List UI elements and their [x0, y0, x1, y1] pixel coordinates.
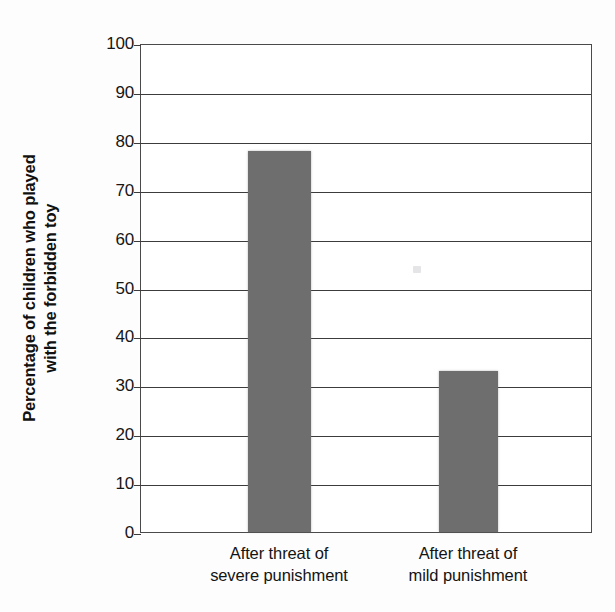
y-axis-tick-label: 20 [88, 425, 134, 445]
gridline [141, 143, 591, 144]
y-axis-tick-labels: 0102030405060708090100 [88, 44, 134, 533]
plot-area [140, 44, 592, 533]
gridline [141, 94, 591, 95]
bar-chart-figure: Percentage of children who played with t… [0, 0, 615, 612]
x-axis-category-0-line-2: severe punishment [169, 565, 389, 587]
gridline [141, 290, 591, 291]
y-axis-tick-mark [134, 436, 141, 437]
y-axis-tick-mark [134, 45, 141, 46]
x-axis-category-0-line-1: After threat of [169, 543, 389, 565]
gridline [141, 436, 591, 437]
y-axis-tick-label: 30 [88, 376, 134, 396]
y-axis-tick-label: 40 [88, 327, 134, 347]
y-axis-tick-label: 100 [88, 34, 134, 54]
y-axis-tick-label: 60 [88, 230, 134, 250]
y-axis-tick-label: 10 [88, 474, 134, 494]
x-axis-category-1-line-1: After threat of [358, 543, 578, 565]
y-axis-tick-label: 90 [88, 83, 134, 103]
y-axis-tick-mark [134, 485, 141, 486]
gridline [141, 192, 591, 193]
bar [439, 371, 498, 532]
y-axis-tick-mark [134, 241, 141, 242]
scan-speck [413, 266, 421, 273]
y-axis-tick-mark [134, 94, 141, 95]
y-axis-tick-label: 70 [88, 181, 134, 201]
y-axis-tick-label: 0 [88, 523, 134, 543]
y-axis-title-line-2: with the forbidden toy [40, 155, 61, 422]
y-axis-tick-mark [134, 387, 141, 388]
x-axis-category-label-0: After threat of severe punishment [169, 543, 389, 587]
y-axis-tick-mark [134, 192, 141, 193]
y-axis-tick-mark [134, 534, 141, 535]
gridline [141, 241, 591, 242]
y-axis-tick-mark [134, 143, 141, 144]
y-axis-tick-label: 50 [88, 279, 134, 299]
y-axis-tick-label: 80 [88, 132, 134, 152]
bar [248, 151, 311, 532]
y-axis-tick-mark [134, 290, 141, 291]
x-axis-category-label-1: After threat of mild punishment [358, 543, 578, 587]
y-axis-title-line-1: Percentage of children who played [19, 155, 40, 422]
gridline [141, 485, 591, 486]
gridline [141, 338, 591, 339]
y-axis-tick-mark [134, 338, 141, 339]
gridline [141, 387, 591, 388]
x-axis-category-1-line-2: mild punishment [358, 565, 578, 587]
y-axis-title: Percentage of children who played with t… [0, 44, 80, 533]
